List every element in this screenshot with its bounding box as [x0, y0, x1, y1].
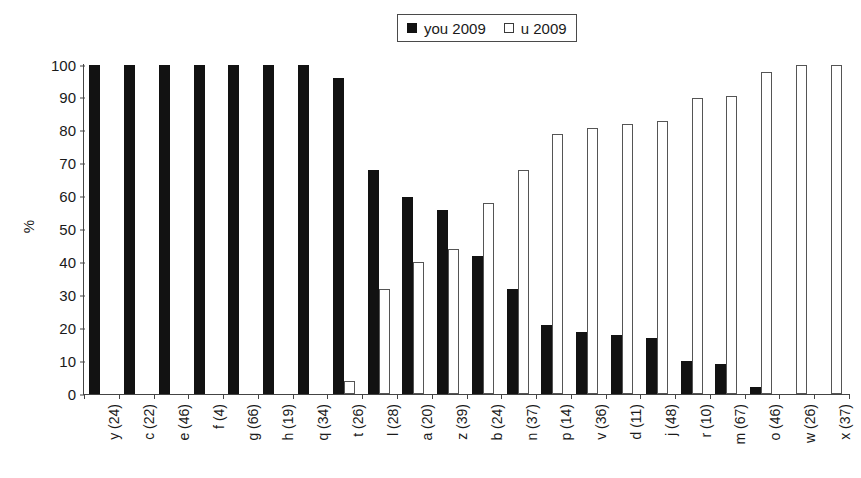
- x-axis-label: f (4): [211, 404, 227, 429]
- x-axis-label: b (24): [489, 404, 505, 441]
- bar-you-2009: [298, 65, 309, 394]
- x-axis-label: c (22): [141, 404, 157, 440]
- bar-you-2009: [194, 65, 205, 394]
- x-axis-label: g (66): [245, 404, 261, 441]
- x-tick-mark: [223, 394, 224, 399]
- x-tick-mark: [710, 394, 711, 399]
- y-axis-tick: 60: [84, 196, 85, 197]
- y-tick-label: 60: [59, 188, 76, 205]
- y-tick-mark: [80, 328, 85, 329]
- y-tick-label: 0: [68, 386, 76, 403]
- y-axis-tick: 100: [84, 65, 85, 66]
- filled-square-icon: [407, 23, 417, 33]
- x-tick-mark: [432, 394, 433, 399]
- bar-you-2009: [507, 289, 518, 394]
- x-tick-mark: [640, 394, 641, 399]
- y-tick-label: 20: [59, 320, 76, 337]
- bar-you-2009: [89, 65, 100, 394]
- bar-you-2009: [159, 65, 170, 394]
- bar-you-2009: [715, 364, 726, 394]
- y-tick-mark: [80, 98, 85, 99]
- legend-entry-you-2009: you 2009: [407, 21, 486, 36]
- x-tick-mark: [779, 394, 780, 399]
- x-axis-label: z (39): [454, 404, 470, 440]
- x-tick-mark: [154, 394, 155, 399]
- x-tick-mark: [293, 394, 294, 399]
- bar-chart: you 2009 u 2009 % 0102030405060708090100…: [0, 0, 861, 478]
- bar-you-2009: [402, 197, 413, 394]
- bar-u-2009: [448, 249, 459, 394]
- y-tick-mark: [80, 131, 85, 132]
- bar-u-2009: [413, 262, 424, 394]
- bar-you-2009: [228, 65, 239, 394]
- x-axis-label: w (26): [802, 404, 818, 443]
- x-tick-mark: [188, 394, 189, 399]
- x-axis-label: p (14): [558, 404, 574, 441]
- y-tick-mark: [80, 65, 85, 66]
- x-tick-mark: [467, 394, 468, 399]
- x-axis-label: r (10): [698, 404, 714, 437]
- bar-you-2009: [541, 325, 552, 394]
- x-tick-mark: [814, 394, 815, 399]
- x-axis-label: o (46): [767, 404, 783, 441]
- bar-you-2009: [263, 65, 274, 394]
- bar-you-2009: [681, 361, 692, 394]
- hollow-square-icon: [504, 23, 514, 33]
- bar-you-2009: [646, 338, 657, 394]
- x-axis-label: t (26): [350, 404, 366, 437]
- bar-you-2009: [472, 256, 483, 394]
- y-axis-tick: 90: [84, 97, 85, 98]
- x-axis-label: v (36): [593, 404, 609, 440]
- bar-u-2009: [761, 72, 772, 394]
- x-tick-mark: [606, 394, 607, 399]
- y-tick-label: 90: [59, 89, 76, 106]
- y-axis-tick: 50: [84, 229, 85, 230]
- y-tick-mark: [80, 197, 85, 198]
- x-axis-label: l (28): [385, 404, 401, 436]
- bar-u-2009: [726, 96, 737, 394]
- x-tick-mark: [327, 394, 328, 399]
- bar-you-2009: [368, 170, 379, 394]
- x-tick-mark: [119, 394, 120, 399]
- x-tick-mark: [675, 394, 676, 399]
- y-axis-tick: 20: [84, 328, 85, 329]
- x-axis-label: n (37): [524, 404, 540, 441]
- y-tick-label: 50: [59, 221, 76, 238]
- x-tick-mark: [849, 394, 850, 399]
- x-axis-label: e (46): [176, 404, 192, 441]
- y-tick-label: 30: [59, 287, 76, 304]
- bar-u-2009: [483, 203, 494, 394]
- x-axis-label: h (19): [280, 404, 296, 441]
- legend-entry-u-2009: u 2009: [504, 21, 567, 36]
- y-tick-mark: [80, 164, 85, 165]
- x-axis-label: d (11): [628, 404, 644, 440]
- bar-you-2009: [333, 78, 344, 394]
- bar-u-2009: [796, 65, 807, 394]
- y-tick-mark: [80, 262, 85, 263]
- y-axis-title: %: [20, 220, 37, 233]
- y-tick-mark: [80, 295, 85, 296]
- x-tick-mark: [258, 394, 259, 399]
- y-tick-mark: [80, 230, 85, 231]
- y-tick-mark: [80, 361, 85, 362]
- y-axis-tick: 80: [84, 130, 85, 131]
- y-axis-tick: 30: [84, 295, 85, 296]
- y-axis-tick: 40: [84, 262, 85, 263]
- bar-u-2009: [344, 381, 355, 394]
- bar-u-2009: [518, 170, 529, 394]
- x-tick-mark: [571, 394, 572, 399]
- y-tick-label: 80: [59, 122, 76, 139]
- legend-label-you-2009: you 2009: [424, 21, 486, 36]
- bar-you-2009: [576, 332, 587, 395]
- y-tick-label: 70: [59, 155, 76, 172]
- y-tick-label: 100: [51, 57, 76, 74]
- bar-u-2009: [622, 124, 633, 394]
- x-axis-label: m (67): [732, 404, 748, 444]
- x-axis-label: a (20): [419, 404, 435, 441]
- x-tick-mark: [362, 394, 363, 399]
- y-axis-tick: 70: [84, 163, 85, 164]
- bar-u-2009: [692, 98, 703, 394]
- x-tick-mark: [536, 394, 537, 399]
- bar-you-2009: [437, 210, 448, 394]
- bar-u-2009: [831, 65, 842, 394]
